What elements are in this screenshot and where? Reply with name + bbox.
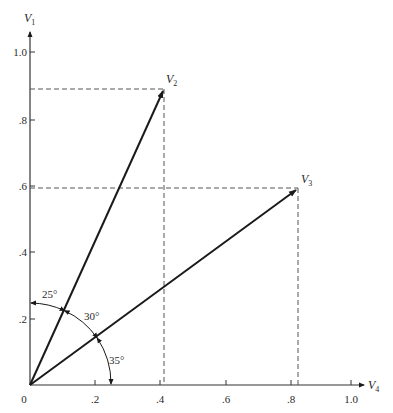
angle-label-25: 25°: [42, 288, 57, 300]
y-tick-label: .6: [19, 180, 28, 192]
x-tick-label: 0: [21, 393, 27, 405]
angle-label-30: 30°: [84, 310, 99, 322]
x-tick-label: .8: [287, 393, 296, 405]
y-tick-label: .2: [19, 313, 27, 325]
v2-label: V2: [166, 72, 177, 88]
x-axis: V4 0 .2 .4 .6 .8 1.0: [21, 378, 379, 405]
vector-v2: V2: [30, 72, 177, 385]
x-tick-label: 1.0: [344, 393, 358, 405]
x-tick-label: .2: [91, 393, 99, 405]
x-tick-label: .4: [156, 393, 165, 405]
angle-label-35: 35°: [109, 354, 124, 366]
y-tick-label: .4: [19, 246, 28, 258]
vector-diagram: V1 .2 .4 .6 .8 1.0 V4 0 .2 .4 .6: [0, 0, 393, 413]
x-tick-label: .6: [222, 393, 231, 405]
arc-25: [31, 303, 65, 311]
y-axis-label: V1: [24, 11, 35, 27]
vector-v3: V3: [30, 172, 312, 385]
y-tick-label: .8: [19, 114, 28, 126]
y-axis: V1 .2 .4 .6 .8 1.0: [13, 11, 35, 385]
x-axis-label: V4: [368, 378, 379, 394]
projection-lines: [30, 89, 298, 385]
v3-label: V3: [301, 172, 312, 188]
y-tick-label: 1.0: [13, 46, 27, 58]
